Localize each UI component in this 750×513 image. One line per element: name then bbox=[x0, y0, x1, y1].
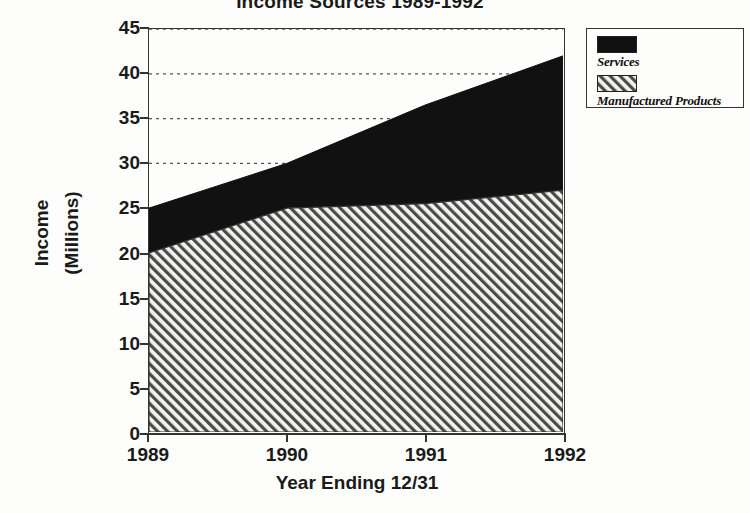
x-axis-tick bbox=[147, 434, 149, 442]
legend-label-services: Services bbox=[597, 54, 743, 70]
y-axis-tick-label: 30 bbox=[100, 152, 140, 174]
x-axis-title: Year Ending 12/31 bbox=[148, 472, 566, 494]
x-axis-tick-label: 1990 bbox=[242, 444, 332, 466]
x-axis-tick-label: 1992 bbox=[520, 444, 610, 466]
y-axis-tick-labels: 051015202530354045 bbox=[88, 28, 140, 434]
y-axis-tick-label: 5 bbox=[100, 378, 140, 400]
plot-area bbox=[148, 28, 565, 434]
y-axis-tick-label: 35 bbox=[100, 107, 140, 129]
x-axis-line bbox=[148, 433, 566, 435]
legend-swatch-manufactured-products bbox=[597, 75, 637, 92]
y-axis-title-line1: Income bbox=[31, 123, 53, 343]
stacked-area-svg bbox=[149, 29, 563, 432]
x-axis-tick-label: 1991 bbox=[381, 444, 471, 466]
income-sources-area-chart: Income Sources 1989-1992 Income (Million… bbox=[0, 0, 750, 513]
y-axis-tick-label: 25 bbox=[100, 197, 140, 219]
legend-swatch-services bbox=[597, 36, 637, 53]
legend-label-manufactured-products: Manufactured Products bbox=[597, 93, 743, 109]
x-axis-tick bbox=[286, 434, 288, 442]
y-axis-tick-label: 10 bbox=[100, 333, 140, 355]
y-axis-tick-label: 0 bbox=[100, 423, 140, 445]
x-axis-tick-label: 1989 bbox=[103, 444, 193, 466]
y-axis-tick-label: 45 bbox=[100, 17, 140, 39]
x-axis-tick bbox=[564, 434, 566, 442]
y-axis-title-line2: (Millions) bbox=[61, 123, 83, 343]
y-axis-tick-label: 15 bbox=[100, 288, 140, 310]
y-axis-tick-label: 40 bbox=[100, 62, 140, 84]
chart-legend: Services Manufactured Products bbox=[586, 28, 744, 108]
y-axis-tick-label: 20 bbox=[100, 243, 140, 265]
x-axis-tick bbox=[425, 434, 427, 442]
chart-title: Income Sources 1989-1992 bbox=[150, 0, 570, 13]
